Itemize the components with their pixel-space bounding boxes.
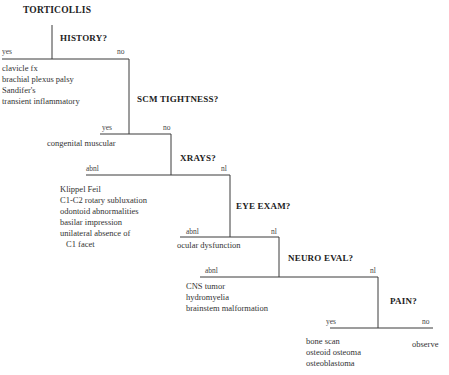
outcome-item: hydromyelia: [186, 292, 268, 303]
outcomes-eye-exam: ocular dysfunction: [177, 240, 241, 251]
outcome-item: C1 facet: [60, 239, 147, 250]
outcome-item: C1-C2 rotary subluxation: [60, 195, 147, 206]
label-abnl: abnl: [86, 163, 99, 174]
outcome-item: congenital muscular: [47, 138, 116, 149]
question-neuro-eval: NEURO EVAL?: [288, 253, 353, 264]
outcome-item: Klippel Feil: [60, 184, 147, 195]
outcomes-history: clavicle fx brachial plexus palsy Sandif…: [2, 63, 80, 107]
outcome-item: osteoid osteoma: [306, 347, 361, 358]
question-scm-tightness: SCM TIGHTNESS?: [137, 94, 218, 105]
label-abnl: abnl: [186, 226, 199, 237]
diagram-title: TORTICOLLIS: [23, 5, 91, 16]
outcome-item: transient inflammatory: [2, 96, 80, 107]
outcome-item: bone scan: [306, 336, 361, 347]
label-no: no: [163, 122, 171, 133]
outcomes-pain-no: observe: [412, 339, 438, 350]
question-history: HISTORY?: [60, 33, 107, 44]
outcomes-pain-yes: bone scan osteoid osteoma osteoblastoma: [306, 336, 361, 369]
outcomes-neuro-eval: CNS tumor hydromyelia brainstem malforma…: [186, 281, 268, 314]
outcomes-xrays: Klippel Feil C1-C2 rotary subluxation od…: [60, 184, 147, 250]
outcome-item: osteoblastoma: [306, 358, 361, 369]
label-no: no: [422, 316, 430, 327]
outcomes-scm: congenital muscular: [47, 138, 116, 149]
outcome-item: odontoid abnormalities: [60, 206, 147, 217]
label-no: no: [117, 46, 125, 57]
label-yes: yes: [2, 46, 12, 57]
outcome-item: Sandifer's: [2, 85, 80, 96]
label-nl: nl: [370, 265, 376, 276]
label-nl: nl: [271, 226, 277, 237]
outcome-item: observe: [412, 339, 438, 350]
question-eye-exam: EYE EXAM?: [236, 201, 291, 212]
outcome-item: brachial plexus palsy: [2, 74, 80, 85]
outcome-item: basilar impression: [60, 217, 147, 228]
outcome-item: CNS tumor: [186, 281, 268, 292]
question-pain: PAIN?: [390, 296, 417, 307]
outcome-item: ocular dysfunction: [177, 240, 241, 251]
outcome-item: clavicle fx: [2, 63, 80, 74]
outcome-item: brainstem malformation: [186, 303, 268, 314]
question-xrays: XRAYS?: [180, 153, 216, 164]
label-nl: nl: [221, 163, 227, 174]
label-yes: yes: [326, 316, 336, 327]
label-yes: yes: [102, 122, 112, 133]
label-abnl: abnl: [205, 265, 218, 276]
outcome-item: unilateral absence of: [60, 228, 147, 239]
